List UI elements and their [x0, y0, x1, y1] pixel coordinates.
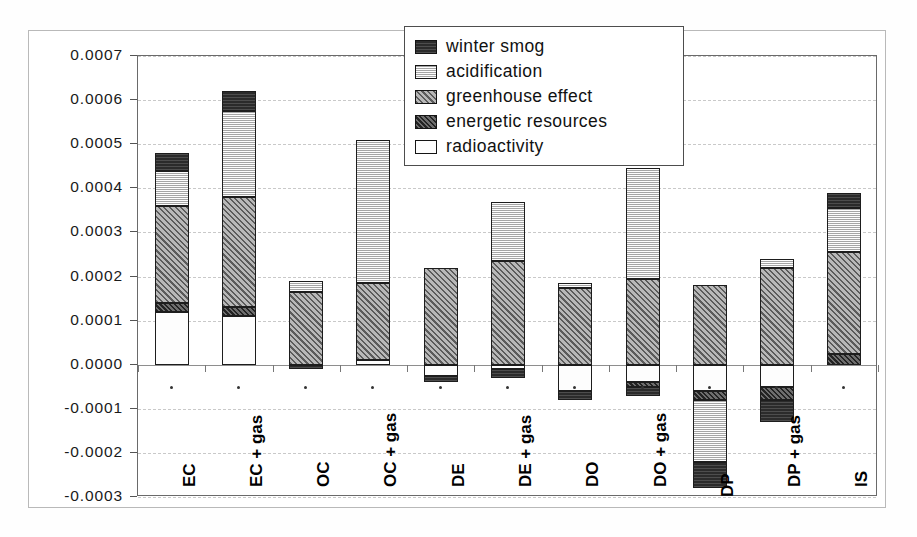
- y-axis-tick: [130, 276, 137, 277]
- y-axis-tick-label: 0.0004: [70, 178, 123, 196]
- bar-segment-greenhouse-effect: [760, 268, 794, 365]
- bar-segment-radioactivity: [424, 365, 458, 376]
- y-axis-tick: [130, 496, 137, 497]
- y-axis-tick: [130, 231, 137, 232]
- bar-segment-energetic-resources: [222, 307, 256, 316]
- legend-label-winter-smog: winter smog: [446, 36, 545, 57]
- x-axis-label-dpgas: DP + gas: [785, 415, 805, 487]
- legend-swatch-radioactivity: [415, 140, 437, 154]
- y-axis: 0.00070.00060.00050.00040.00030.00020.00…: [0, 55, 137, 496]
- bar-segment-greenhouse-effect: [424, 268, 458, 365]
- x-axis-label-dp: DP: [718, 473, 738, 497]
- bar-segment-winter-smog: [424, 376, 458, 383]
- x-axis-tick: [407, 365, 408, 372]
- legend-item-acidification: acidification: [415, 59, 677, 84]
- y-axis-tick-label: 0.0001: [70, 311, 123, 329]
- legend-label-energetic-resources: energetic resources: [446, 111, 607, 132]
- scan-artifact-dot: [708, 386, 711, 389]
- y-axis-tick: [130, 364, 137, 365]
- legend-label-greenhouse-effect: greenhouse effect: [446, 86, 593, 107]
- bar-segment-energetic-resources: [693, 391, 727, 400]
- x-axis-tick: [340, 365, 341, 372]
- bar-segment-winter-smog: [558, 391, 592, 400]
- y-axis-tick: [130, 320, 137, 321]
- bar-segment-winter-smog: [222, 91, 256, 111]
- bar-segment-greenhouse-effect: [289, 292, 323, 365]
- y-axis-tick: [130, 187, 137, 188]
- x-axis-tick: [205, 365, 206, 372]
- y-axis-tick-label: 0.0000: [70, 355, 123, 373]
- y-axis-tick-label: 0.0002: [70, 267, 123, 285]
- bar-segment-winter-smog: [827, 193, 861, 208]
- y-axis-tick-label: 0.0005: [70, 134, 123, 152]
- x-axis-tick: [474, 365, 475, 372]
- scan-artifact-dot: [170, 386, 173, 389]
- x-axis-tick: [811, 365, 812, 372]
- bar-segment-acidification: [289, 281, 323, 292]
- x-axis-tick: [273, 365, 274, 372]
- bar-segment-greenhouse-effect: [222, 197, 256, 307]
- x-axis-tick: [676, 365, 677, 372]
- chart-figure: 0.00070.00060.00050.00040.00030.00020.00…: [0, 0, 917, 537]
- y-axis-tick: [130, 408, 137, 409]
- y-axis-tick-label: 0.0003: [70, 222, 123, 240]
- x-axis-tick: [138, 365, 139, 372]
- x-axis-label-do: DO: [583, 462, 603, 488]
- bar-oc[interactable]: [289, 56, 323, 495]
- bar-ec[interactable]: [155, 56, 189, 495]
- bar-segment-greenhouse-effect: [626, 279, 660, 365]
- x-axis-tick: [542, 365, 543, 372]
- bar-segment-energetic-resources: [827, 354, 861, 365]
- bar-segment-greenhouse-effect: [356, 283, 390, 360]
- x-axis-tick: [743, 365, 744, 372]
- bar-segment-acidification: [491, 202, 525, 262]
- x-axis-tick: [878, 365, 879, 372]
- bar-segment-radioactivity: [491, 365, 525, 369]
- bar-segment-radioactivity: [626, 365, 660, 383]
- y-axis-tick: [130, 452, 137, 453]
- y-axis-tick: [130, 143, 137, 144]
- legend-swatch-winter-smog: [415, 40, 437, 54]
- x-axis-label-degas: DE + gas: [516, 415, 536, 487]
- bar-segment-winter-smog: [155, 153, 189, 171]
- bar-segment-acidification: [693, 400, 727, 462]
- legend-item-winter-smog: winter smog: [415, 34, 677, 59]
- bar-is[interactable]: [827, 56, 861, 495]
- x-axis-label-oc: OC: [314, 462, 334, 488]
- bar-segment-greenhouse-effect: [155, 206, 189, 303]
- x-axis-label-ec: EC: [180, 463, 200, 487]
- bar-segment-energetic-resources: [760, 387, 794, 400]
- legend-item-radioactivity: radioactivity: [415, 134, 677, 159]
- x-axis-tick: [609, 365, 610, 372]
- bar-segment-radioactivity: [222, 316, 256, 365]
- bar-segment-radioactivity: [356, 360, 390, 364]
- bar-segment-greenhouse-effect: [827, 252, 861, 353]
- legend-item-energetic-resources: energetic resources: [415, 109, 677, 134]
- y-axis-tick-label: -0.0002: [64, 443, 123, 461]
- bar-segment-acidification: [558, 283, 592, 287]
- y-axis-tick: [130, 99, 137, 100]
- scan-artifact-dot: [237, 386, 240, 389]
- bar-dp[interactable]: [693, 56, 727, 495]
- bar-segment-acidification: [760, 259, 794, 268]
- gridline: [138, 497, 876, 498]
- bar-segment-greenhouse-effect: [558, 288, 592, 365]
- scan-artifact-dot: [439, 386, 442, 389]
- bar-segment-greenhouse-effect: [693, 285, 727, 364]
- y-axis-tick-label: -0.0003: [64, 487, 123, 505]
- bar-segment-acidification: [827, 208, 861, 252]
- scan-artifact-dot: [641, 386, 644, 389]
- x-axis-label-ocgas: OC + gas: [381, 413, 401, 487]
- chart-legend: winter smog acidification greenhouse eff…: [404, 26, 684, 166]
- bar-segment-acidification: [155, 171, 189, 206]
- y-axis-tick-label: -0.0001: [64, 399, 123, 417]
- x-axis-label-is: IS: [852, 471, 872, 487]
- bar-segment-radioactivity: [155, 312, 189, 365]
- bar-segment-acidification: [356, 140, 390, 283]
- legend-item-greenhouse-effect: greenhouse effect: [415, 84, 677, 109]
- bar-segment-greenhouse-effect: [491, 261, 525, 365]
- bar-segment-energetic-resources: [155, 303, 189, 312]
- y-axis-tick-label: 0.0007: [70, 46, 123, 64]
- legend-label-acidification: acidification: [446, 61, 543, 82]
- scan-artifact-dot: [506, 386, 509, 389]
